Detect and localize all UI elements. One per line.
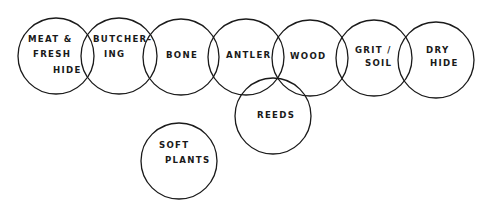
- label-dry: DRY: [426, 45, 449, 55]
- label-bone: BONE: [166, 50, 198, 60]
- material-venn-diagram: MEAT & FRESH HIDE BUTCHER- ING BONE ANTL…: [0, 0, 492, 217]
- label-fresh: FRESH: [33, 49, 71, 59]
- label-grit: GRIT /: [355, 45, 392, 55]
- label-soft: SOFT: [159, 140, 189, 150]
- label-wood: WOOD: [290, 51, 326, 61]
- label-butcher: BUTCHER-: [93, 34, 152, 44]
- circle-group-soft-plants: SOFT PLANTS: [141, 123, 217, 199]
- label-meat: MEAT &: [28, 34, 73, 44]
- label-plants: PLANTS: [165, 155, 210, 165]
- label-dry-hide: HIDE: [430, 58, 459, 68]
- label-reeds: REEDS: [257, 110, 295, 120]
- label-soil: SOIL: [365, 58, 392, 68]
- label-antler: ANTLER: [226, 50, 271, 60]
- label-ing: ING: [104, 49, 125, 59]
- circle-group-butchering: BUTCHER- ING: [81, 18, 157, 94]
- label-hide: HIDE: [53, 65, 82, 75]
- circle-group-reeds: REEDS: [235, 78, 311, 154]
- circle-group-meat-fresh-hide: MEAT & FRESH HIDE: [18, 18, 94, 94]
- circle-group-dry-hide: DRY HIDE: [398, 22, 474, 98]
